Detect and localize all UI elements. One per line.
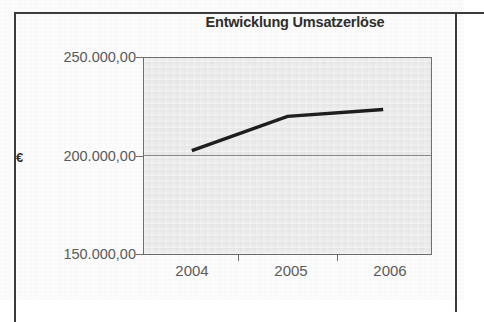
data-series-layer	[144, 58, 431, 254]
x-axis-tick-label-2005: 2005	[251, 262, 331, 279]
y-axis-tick-labels: 250.000,00 200.000,00 150.000,00	[16, 0, 136, 300]
chart-title: Entwicklung Umsatzerlöse	[150, 14, 440, 30]
x-axis-tick-2	[337, 255, 338, 261]
line-series-umsatzerloese	[192, 110, 383, 151]
y-axis-tick-label-top: 250.000,00	[18, 49, 136, 65]
y-axis-tick-label-middle: 200.000,00	[18, 148, 136, 164]
x-axis-tick-label-2006: 2006	[350, 262, 430, 279]
y-axis-unit-label: €	[16, 150, 23, 165]
y-axis-tick-label-bottom: 150.000,00	[18, 246, 136, 262]
x-axis-tick-label-2004: 2004	[152, 262, 232, 279]
x-axis-tick-1	[238, 255, 239, 261]
plot-area	[143, 57, 432, 255]
